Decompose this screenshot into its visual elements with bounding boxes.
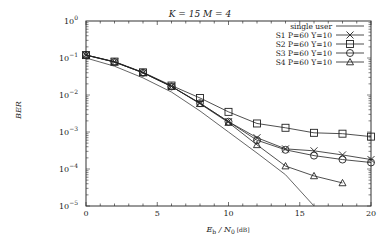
x-tick-label: 20 [366,209,376,218]
plot-series [83,52,375,206]
x-axis-label: Eb / N0 [dB] [205,225,249,235]
y-tick-label: 10−1 [59,51,78,63]
series-none [86,58,314,206]
chart-title: K = 15 M = 4 [168,9,232,19]
y-tick-label: 10−5 [59,199,78,211]
legend-label: single user [290,22,332,31]
y-tick-label: 10−2 [59,88,78,100]
ber-chart: 0510152010010−110−210−310−410−5 single u… [0,0,391,244]
y-tick-label: 10−3 [59,125,78,137]
legend-label: S1 P=60 Y=10 [276,31,333,40]
y-tick-label: 100 [64,14,78,26]
series-triangle [83,52,347,186]
x-tick-label: 5 [155,209,160,218]
y-tick-label: 10−4 [59,162,78,174]
legend: single userS1 P=60 Y=10S2 P=60 Y=10S3 P=… [276,22,364,67]
x-tick-label: 15 [295,209,305,218]
x-tick-label: 0 [83,209,88,218]
legend-label: S2 P=60 Y=10 [276,40,333,49]
y-axis-label: BER [14,101,23,120]
legend-label: S3 P=60 Y=10 [276,49,333,58]
series-x [83,52,375,163]
legend-label: S4 P=60 Y=10 [276,58,333,67]
x-tick-label: 10 [223,209,233,218]
